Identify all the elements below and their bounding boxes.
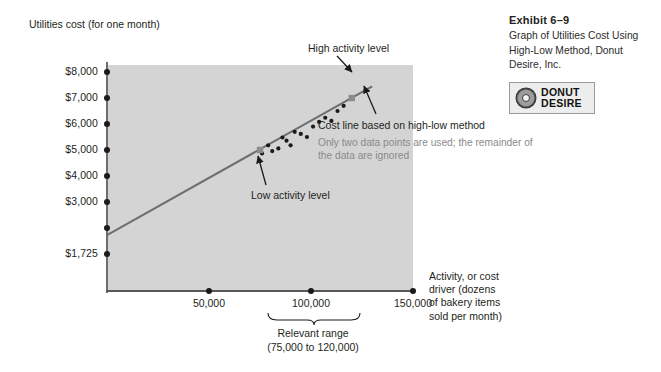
cost-line-arrow <box>364 86 376 114</box>
exhibit-figure: Utilities cost (for one month) $8,000$7,… <box>0 0 661 372</box>
cost-line-note: Only two data points are used; the remai… <box>318 137 533 162</box>
high-activity-arrow <box>337 56 352 72</box>
low-activity-arrow <box>258 156 266 185</box>
relevant-range-values: (75,000 to 120,000) <box>238 341 388 355</box>
exhibit-block: Exhibit 6–9 Graph of Utilities Cost Usin… <box>509 14 649 114</box>
low-activity-label: Low activity level <box>251 189 330 201</box>
donut-desire-wordmark: DONUT DESIRE <box>541 87 582 108</box>
logo-line-1: DONUT <box>541 87 582 98</box>
high-activity-label: High activity level <box>308 42 389 54</box>
logo-line-2: DESIRE <box>541 98 582 109</box>
cost-line-label: Cost line based on high-low method <box>318 119 485 131</box>
relevant-range-caption: Relevant range (75,000 to 120,000) <box>238 327 388 354</box>
exhibit-caption: Graph of Utilities Cost Using High-Low M… <box>509 29 649 73</box>
exhibit-number: Exhibit 6–9 <box>509 14 649 26</box>
donut-desire-logo: DONUT DESIRE <box>509 82 595 114</box>
relevant-range-brace <box>268 313 360 325</box>
x-axis-title: Activity, or cost driver (dozens of bake… <box>429 270 507 323</box>
donut-icon <box>514 86 538 110</box>
relevant-range-label: Relevant range <box>238 327 388 341</box>
